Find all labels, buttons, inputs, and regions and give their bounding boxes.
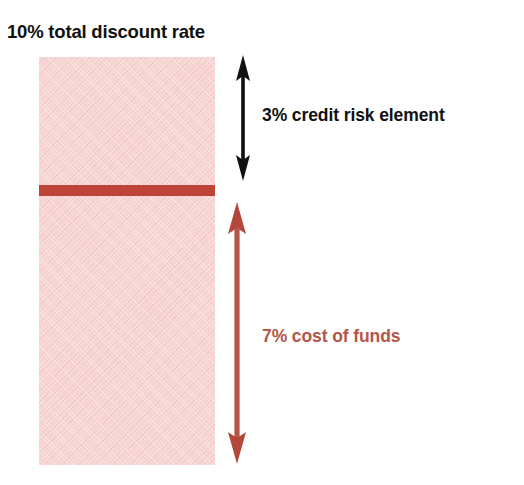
- bar-segment-divider: [39, 185, 215, 196]
- cost-of-funds-arrow-icon: [222, 202, 252, 464]
- stacked-bar: [39, 57, 215, 465]
- discount-rate-diagram: 10% total discount rate 3% credit risk e…: [0, 0, 524, 485]
- page-title: 10% total discount rate: [7, 21, 205, 43]
- credit-risk-label: 3% credit risk element: [262, 105, 445, 126]
- credit-risk-arrow-icon: [229, 55, 257, 181]
- cost-of-funds-label: 7% cost of funds: [262, 326, 400, 347]
- bar-texture: [39, 57, 215, 465]
